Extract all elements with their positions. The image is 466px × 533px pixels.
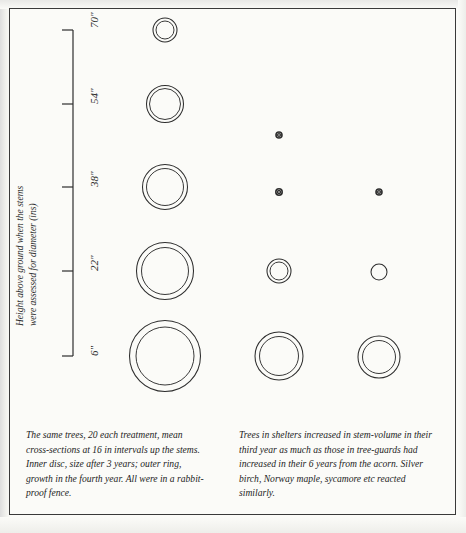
y-tick-label-22: 22" [88, 255, 100, 271]
caption-right: Trees in shelters increased in stem-volu… [215, 424, 456, 515]
y-tick-label-6: 6" [88, 346, 100, 356]
paper-edge-right [458, 0, 466, 533]
y-tick-label-38: 38" [88, 171, 100, 187]
y-axis-label-line1: Height above ground when the stems [14, 96, 27, 326]
caption-left: The same trees, 20 each treatment, mean … [9, 424, 215, 515]
figure-page: Height above ground when the stems were … [0, 0, 466, 533]
caption-row: The same trees, 20 each treatment, mean … [9, 424, 456, 515]
y-tick-label-70: 70" [88, 12, 100, 28]
paper-edge-bottom [0, 517, 466, 533]
y-axis-label-text: Height above ground when the stems were … [14, 96, 40, 326]
y-axis-label-line2: were assessed for diameter (ins) [27, 96, 40, 326]
y-tick-label-54: 54" [88, 88, 100, 104]
